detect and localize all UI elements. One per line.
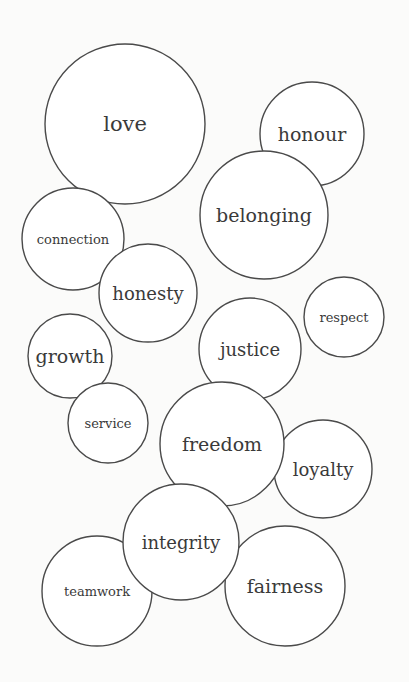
bubble-label: fairness [247,575,324,597]
bubble-label: loyalty [293,459,354,480]
bubble-label: honesty [112,283,184,304]
bubble-label: belonging [216,204,312,226]
bubble-label: growth [36,345,105,367]
bubble-label: teamwork [64,584,130,599]
bubble-love: love [45,44,205,204]
bubble-label: connection [37,232,110,247]
bubble-respect: respect [304,277,384,357]
bubble-belonging: belonging [200,151,328,279]
bubble-label: service [84,416,131,431]
bubble-integrity: integrity [123,484,239,600]
bubble-label: integrity [142,532,221,553]
bubble-label: justice [218,339,280,360]
bubble-diagram: lovehonourbelongingconnectionhonestyresp… [0,0,409,682]
bubble-label: love [103,112,147,136]
bubble-honesty: honesty [99,244,197,342]
bubble-label: respect [319,310,369,325]
bubble-fairness: fairness [225,526,345,646]
bubble-label: honour [278,123,348,145]
bubble-service: service [68,383,148,463]
bubble-loyalty: loyalty [274,420,372,518]
bubble-label: freedom [182,433,262,455]
